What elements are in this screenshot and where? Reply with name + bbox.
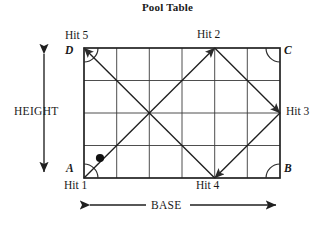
corner-label-c: C <box>284 44 292 56</box>
label-hit-3: Hit 3 <box>286 105 309 117</box>
cue-ball <box>96 154 104 162</box>
label-hit-1: Hit 1 <box>64 179 87 191</box>
label-hit-4: Hit 4 <box>196 179 219 191</box>
corner-label-d: D <box>65 44 73 56</box>
label-hit-2: Hit 2 <box>197 28 220 40</box>
height-axis-label: HEIGHT <box>14 105 59 117</box>
corner-label-b: B <box>284 162 292 174</box>
base-axis-label: BASE <box>151 199 182 211</box>
corner-label-a: A <box>66 162 74 174</box>
label-hit-5: Hit 5 <box>65 29 88 41</box>
